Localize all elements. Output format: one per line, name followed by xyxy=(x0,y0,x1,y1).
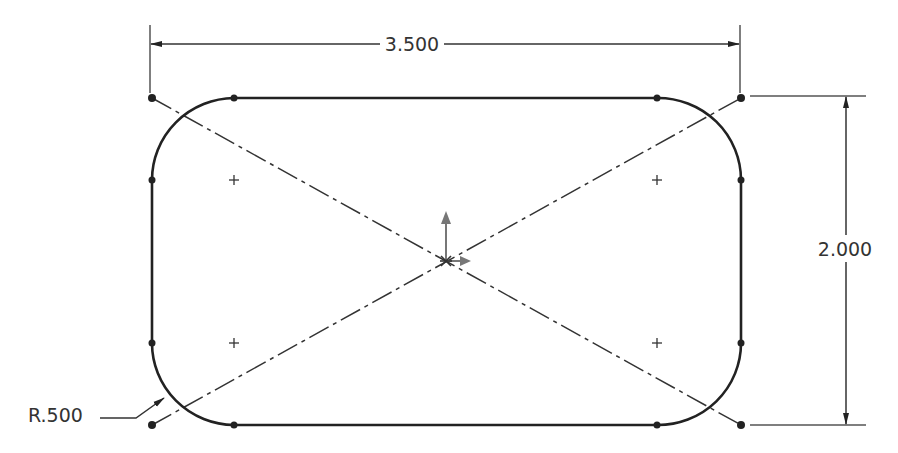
tangent-point[interactable] xyxy=(738,340,745,347)
sketch-canvas[interactable]: 3.500 2.000 R.500 xyxy=(0,0,898,453)
radius-dimension-label[interactable]: R.500 xyxy=(28,404,83,426)
corner-point-top-right[interactable] xyxy=(737,94,745,102)
tangent-point[interactable] xyxy=(654,422,661,429)
radius-dimension[interactable]: R.500 xyxy=(28,398,164,426)
tangent-point[interactable] xyxy=(231,95,238,102)
origin-icon[interactable] xyxy=(440,211,471,266)
tangent-point[interactable] xyxy=(149,340,156,347)
arc-center-mark[interactable] xyxy=(652,175,662,185)
tangent-point[interactable] xyxy=(231,422,238,429)
height-dimension-label[interactable]: 2.000 xyxy=(818,238,872,260)
corner-point-bottom-right[interactable] xyxy=(737,421,745,429)
radius-leader-line xyxy=(100,398,164,418)
corner-point-bottom-left[interactable] xyxy=(148,421,156,429)
arc-center-mark[interactable] xyxy=(229,175,239,185)
tangent-point[interactable] xyxy=(149,177,156,184)
arc-center-mark[interactable] xyxy=(229,338,239,348)
tangent-point[interactable] xyxy=(738,177,745,184)
height-dimension[interactable]: 2.000 xyxy=(750,96,872,425)
tangent-point[interactable] xyxy=(654,95,661,102)
arc-center-mark[interactable] xyxy=(652,338,662,348)
width-dimension[interactable]: 3.500 xyxy=(150,25,740,93)
corner-point-top-left[interactable] xyxy=(148,94,156,102)
width-dimension-label[interactable]: 3.500 xyxy=(385,33,439,55)
